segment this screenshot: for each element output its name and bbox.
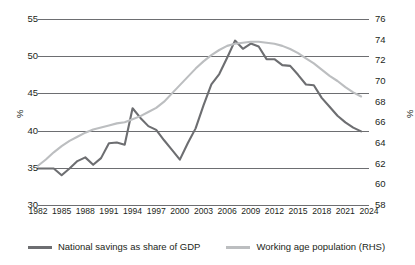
legend-label: National savings as share of GDP — [58, 242, 201, 252]
legend-swatch — [28, 246, 52, 249]
plot-area — [38, 19, 369, 205]
x-axis-tick-label: 2024 — [359, 207, 378, 216]
y-axis-left-tick-label: 45 — [27, 88, 38, 98]
y-axis-left-tick-label: 55 — [27, 14, 38, 24]
y-axis-right-tick-label: 64 — [375, 138, 386, 148]
legend-item[interactable]: Working age population (RHS) — [226, 242, 385, 252]
x-axis-tick-label: 2006 — [218, 207, 237, 216]
x-axis-tick-label: 1997 — [147, 207, 166, 216]
y-axis-right-tick-label: 66 — [375, 117, 386, 127]
y-axis-left-title: % — [14, 110, 25, 118]
y-axis-right-tick-label: 70 — [375, 76, 386, 86]
x-axis-tick-label: 2018 — [312, 207, 331, 216]
y-axis-right-tick-label: 72 — [375, 55, 386, 65]
series-lines — [38, 19, 369, 205]
x-axis-ticks: 1982198519881991199419972000200320062009… — [38, 207, 369, 221]
y-axis-right-tick-label: 76 — [375, 14, 386, 24]
x-axis-tick-label: 2009 — [241, 207, 260, 216]
x-axis-tick-label: 1985 — [52, 207, 71, 216]
x-axis-tick-label: 1982 — [28, 207, 47, 216]
chart-legend: National savings as share of GDPWorking … — [0, 238, 413, 256]
y-axis-right-title: % — [404, 110, 415, 118]
series-line — [38, 42, 361, 166]
y-axis-right-tick-label: 68 — [375, 97, 386, 107]
legend-swatch — [226, 246, 250, 249]
y-axis-right-tick-label: 60 — [375, 179, 386, 189]
series-line — [38, 41, 361, 176]
x-axis-tick-label: 1988 — [76, 207, 95, 216]
x-axis-tick-label: 1991 — [99, 207, 118, 216]
y-axis-right-tick-label: 62 — [375, 159, 386, 169]
legend-item[interactable]: National savings as share of GDP — [28, 242, 201, 252]
x-axis-tick-label: 2012 — [265, 207, 284, 216]
x-axis-tick-label: 2015 — [289, 207, 308, 216]
y-axis-left-tick-label: 40 — [27, 126, 38, 136]
x-axis-tick-label: 2003 — [194, 207, 213, 216]
y-axis-left-tick-label: 35 — [27, 163, 38, 173]
x-axis-tick-label: 2021 — [336, 207, 355, 216]
legend-label: Working age population (RHS) — [256, 242, 385, 252]
y-axis-left-tick-label: 50 — [27, 51, 38, 61]
x-axis-tick-label: 1994 — [123, 207, 142, 216]
x-axis-tick-label: 2000 — [170, 207, 189, 216]
y-axis-right-tick-label: 74 — [375, 35, 386, 45]
